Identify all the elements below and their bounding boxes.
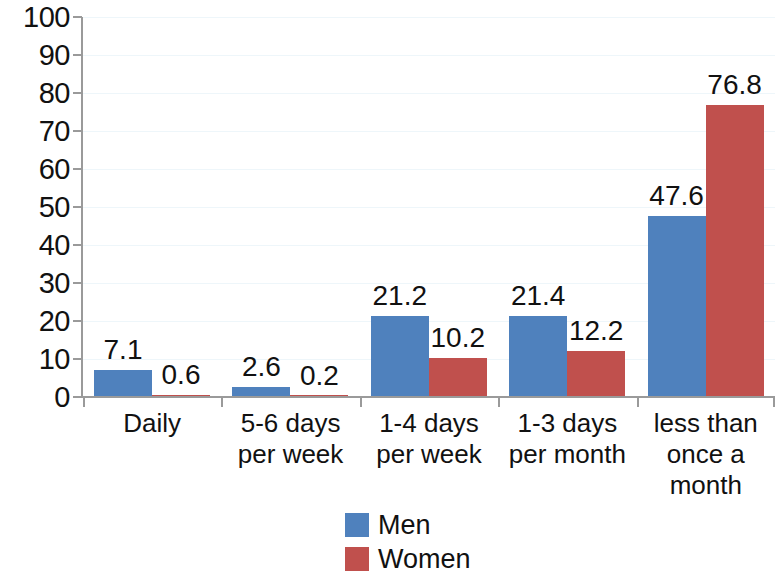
legend: MenWomen: [345, 508, 605, 576]
x-axis-category-label-line: 1-3 days: [498, 408, 636, 439]
y-axis-tick-mark: [73, 282, 82, 284]
bar-value-label-women: 10.2: [413, 324, 503, 352]
bar-women[interactable]: [567, 351, 625, 397]
legend-label: Men: [378, 512, 431, 539]
legend-swatch-icon: [345, 547, 369, 571]
bar-value-label-men: 21.4: [493, 282, 583, 310]
x-axis-category-label-line: per week: [221, 439, 359, 470]
x-axis-category-label: 1-4 daysper week: [360, 408, 498, 470]
plot-area: 7.10.62.60.221.210.221.412.247.676.8: [83, 17, 775, 397]
bar-value-label-women: 0.6: [136, 361, 226, 389]
y-axis-tick-label: 20: [0, 307, 70, 336]
x-axis-category-label-line: 5-6 days: [221, 408, 359, 439]
x-axis-category-label: Daily: [83, 408, 221, 439]
x-axis-tick-mark: [360, 398, 362, 407]
y-axis-tick-label: 70: [0, 117, 70, 146]
x-axis-tick-mark: [221, 398, 223, 407]
y-axis-tick-label: 10: [0, 345, 70, 374]
y-axis: 1009080706050403020100: [0, 0, 70, 420]
y-axis-tick-mark: [73, 206, 82, 208]
bar-women[interactable]: [429, 358, 487, 397]
bar-value-label-men: 21.2: [355, 282, 445, 310]
x-axis-tick-mark: [498, 398, 500, 407]
y-axis-tick-label: 30: [0, 269, 70, 298]
y-axis-tick-mark: [73, 358, 82, 360]
bar-value-label-women: 0.2: [274, 362, 364, 390]
x-axis-tick-mark: [83, 398, 85, 407]
y-axis-tick-label: 0: [0, 383, 70, 412]
y-axis-tick-mark: [73, 320, 82, 322]
x-axis-tick-mark: [773, 398, 775, 407]
legend-label: Women: [378, 546, 471, 573]
y-axis-tick-mark: [73, 168, 82, 170]
legend-item-women[interactable]: Women: [345, 542, 605, 576]
bar-value-label-women: 12.2: [551, 317, 641, 345]
x-axis-category-label: less thanonce amonth: [637, 408, 775, 501]
x-axis-category-label-line: once a: [637, 439, 775, 470]
x-axis-category-label-line: 1-4 days: [360, 408, 498, 439]
x-axis-line: [81, 396, 775, 398]
x-axis-category-label: 5-6 daysper week: [221, 408, 359, 470]
y-axis-tick-mark: [73, 92, 82, 94]
y-axis-tick-label: 40: [0, 231, 70, 260]
y-axis-tick-label: 50: [0, 193, 70, 222]
bar-group: 47.676.8: [637, 17, 775, 397]
bars-layer: 7.10.62.60.221.210.221.412.247.676.8: [83, 17, 775, 397]
x-axis-category-label-line: per month: [498, 439, 636, 470]
y-axis-tick-mark: [73, 130, 82, 132]
y-axis-tick-label: 90: [0, 41, 70, 70]
x-axis-tick-mark: [637, 398, 639, 407]
y-axis-tick-mark: [73, 16, 82, 18]
y-axis-tick-label: 100: [0, 3, 70, 32]
bar-group: 21.412.2: [498, 17, 636, 397]
x-axis-category-label-line: month: [637, 470, 775, 501]
y-axis-tick-label: 80: [0, 79, 70, 108]
bar-group: 21.210.2: [360, 17, 498, 397]
y-axis-tick-mark: [73, 244, 82, 246]
bar-chart: 1009080706050403020100 7.10.62.60.221.21…: [0, 0, 776, 580]
x-axis: Daily5-6 daysper week1-4 daysper week1-3…: [83, 408, 775, 504]
bar-women[interactable]: [706, 105, 764, 397]
x-axis-category-label-line: Daily: [83, 408, 221, 439]
y-axis-tick-label: 60: [0, 155, 70, 184]
bar-men[interactable]: [648, 216, 706, 397]
bar-group: 7.10.6: [83, 17, 221, 397]
bar-value-label-women: 76.8: [690, 71, 776, 99]
x-axis-category-label-line: per week: [360, 439, 498, 470]
y-axis-tick-mark: [73, 396, 82, 398]
y-axis-tick-mark: [73, 54, 82, 56]
legend-swatch-icon: [345, 513, 369, 537]
bar-group: 2.60.2: [221, 17, 359, 397]
x-axis-category-label-line: less than: [637, 408, 775, 439]
x-axis-category-label: 1-3 daysper month: [498, 408, 636, 470]
legend-item-men[interactable]: Men: [345, 508, 605, 542]
